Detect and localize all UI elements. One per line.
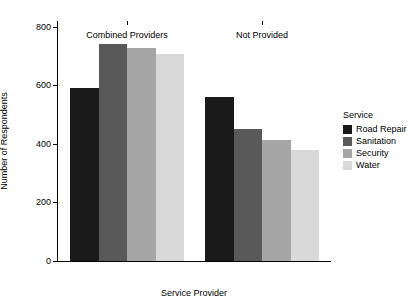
legend-title: Service (343, 110, 407, 120)
x-tick-label: Not Provided (236, 30, 288, 40)
y-tick-label: 600 (36, 80, 51, 90)
legend-label: Security (356, 149, 389, 158)
bar (262, 140, 291, 261)
legend-entry[interactable]: Road Repair (343, 123, 407, 135)
y-tick-label: 400 (36, 139, 51, 149)
y-tick-label: 0 (46, 256, 51, 266)
legend: Service Road RepairSanitationSecurityWat… (343, 110, 407, 171)
plot-area: 0200400600800 Combined ProvidersNot Prov… (57, 21, 330, 261)
bar (291, 150, 320, 261)
legend-swatch-icon (343, 149, 352, 158)
bar (156, 54, 185, 261)
y-axis-title: Number of Respondents (0, 92, 9, 190)
bar (70, 88, 99, 261)
legend-entry[interactable]: Sanitation (343, 135, 407, 147)
legend-entries: Road RepairSanitationSecurityWater (343, 123, 407, 171)
bar (127, 48, 156, 261)
legend-entry[interactable]: Water (343, 159, 407, 171)
legend-entry[interactable]: Security (343, 147, 407, 159)
y-tick-label: 800 (36, 22, 51, 32)
legend-swatch-icon (343, 161, 352, 170)
x-axis-title: Service Provider (57, 288, 331, 298)
y-tick-label: 200 (36, 197, 51, 207)
bar (234, 129, 263, 261)
legend-label: Sanitation (356, 137, 396, 146)
legend-swatch-icon (343, 137, 352, 146)
y-tick-mark (53, 144, 57, 145)
legend-label: Water (356, 161, 380, 170)
bar-chart-figure: 0200400600800 Combined ProvidersNot Prov… (0, 0, 418, 308)
y-tick-mark (53, 27, 57, 28)
x-tick-mark (262, 21, 263, 25)
y-tick-mark (53, 85, 57, 86)
legend-label: Road Repair (356, 125, 407, 134)
y-tick-mark (53, 261, 57, 262)
bar (99, 44, 128, 261)
x-tick-label: Combined Providers (86, 30, 168, 40)
x-tick-mark (127, 21, 128, 25)
x-axis-spine (57, 261, 331, 262)
legend-swatch-icon (343, 125, 352, 134)
bar (205, 97, 234, 261)
y-tick-mark (53, 202, 57, 203)
